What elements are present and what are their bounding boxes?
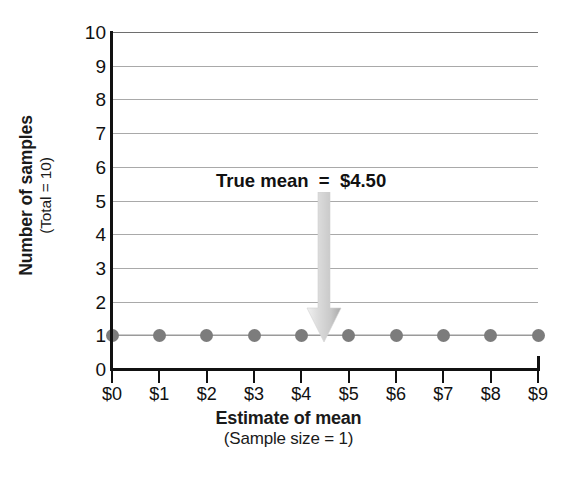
x-axis-title-sub: (Sample size = 1) xyxy=(0,429,577,449)
true-mean-arrow-icon xyxy=(305,192,343,344)
x-axis-tick xyxy=(490,371,492,383)
data-point-marker xyxy=(200,329,213,342)
data-point-marker xyxy=(390,329,403,342)
x-axis-tick xyxy=(206,371,208,383)
y-axis-tick-label: 1 xyxy=(72,326,106,345)
y-axis-title-sub: (Total = 10) xyxy=(36,157,53,234)
x-axis-right-cap xyxy=(537,356,540,370)
y-axis-tick-label: 7 xyxy=(72,124,106,143)
true-mean-annotation-label: True mean = $4.50 xyxy=(216,170,386,192)
x-axis-tick xyxy=(111,371,113,383)
x-axis-tick xyxy=(442,371,444,383)
y-axis-tick-label: 9 xyxy=(72,56,106,75)
data-point-marker xyxy=(532,329,545,342)
x-axis-tick-label: $9 xyxy=(508,385,568,403)
x-axis-spine xyxy=(110,368,540,371)
chart-figure: Number of samples (Total = 10) 012345678… xyxy=(0,0,577,486)
x-axis-tick xyxy=(158,371,160,383)
y-axis-tick-label: 2 xyxy=(72,292,106,311)
data-point-marker xyxy=(248,329,261,342)
x-axis-tick xyxy=(537,371,539,383)
y-axis-tick-label: 3 xyxy=(72,258,106,277)
y-axis-title-main: Number of samples xyxy=(17,115,37,276)
y-axis-tick-label: 8 xyxy=(72,90,106,109)
y-axis-tick-label: 0 xyxy=(72,360,106,379)
x-axis-title-main: Estimate of mean xyxy=(0,408,577,429)
x-axis-tick xyxy=(395,371,397,383)
data-point-marker xyxy=(484,329,497,342)
x-axis-title: Estimate of mean (Sample size = 1) xyxy=(0,408,577,449)
x-axis-tick xyxy=(348,371,350,383)
y-axis-tick-label: 4 xyxy=(72,225,106,244)
y-axis-tick-label: 5 xyxy=(72,191,106,210)
x-axis-tick xyxy=(253,371,255,383)
y-axis-tick-label: 10 xyxy=(72,23,106,42)
data-point-marker xyxy=(437,329,450,342)
y-axis-spine xyxy=(110,31,113,371)
y-axis-title: Number of samples (Total = 10) xyxy=(0,0,70,390)
x-axis-tick xyxy=(300,371,302,383)
data-point-marker xyxy=(153,329,166,342)
data-point-marker xyxy=(342,329,355,342)
y-axis-tick-label: 6 xyxy=(72,157,106,176)
